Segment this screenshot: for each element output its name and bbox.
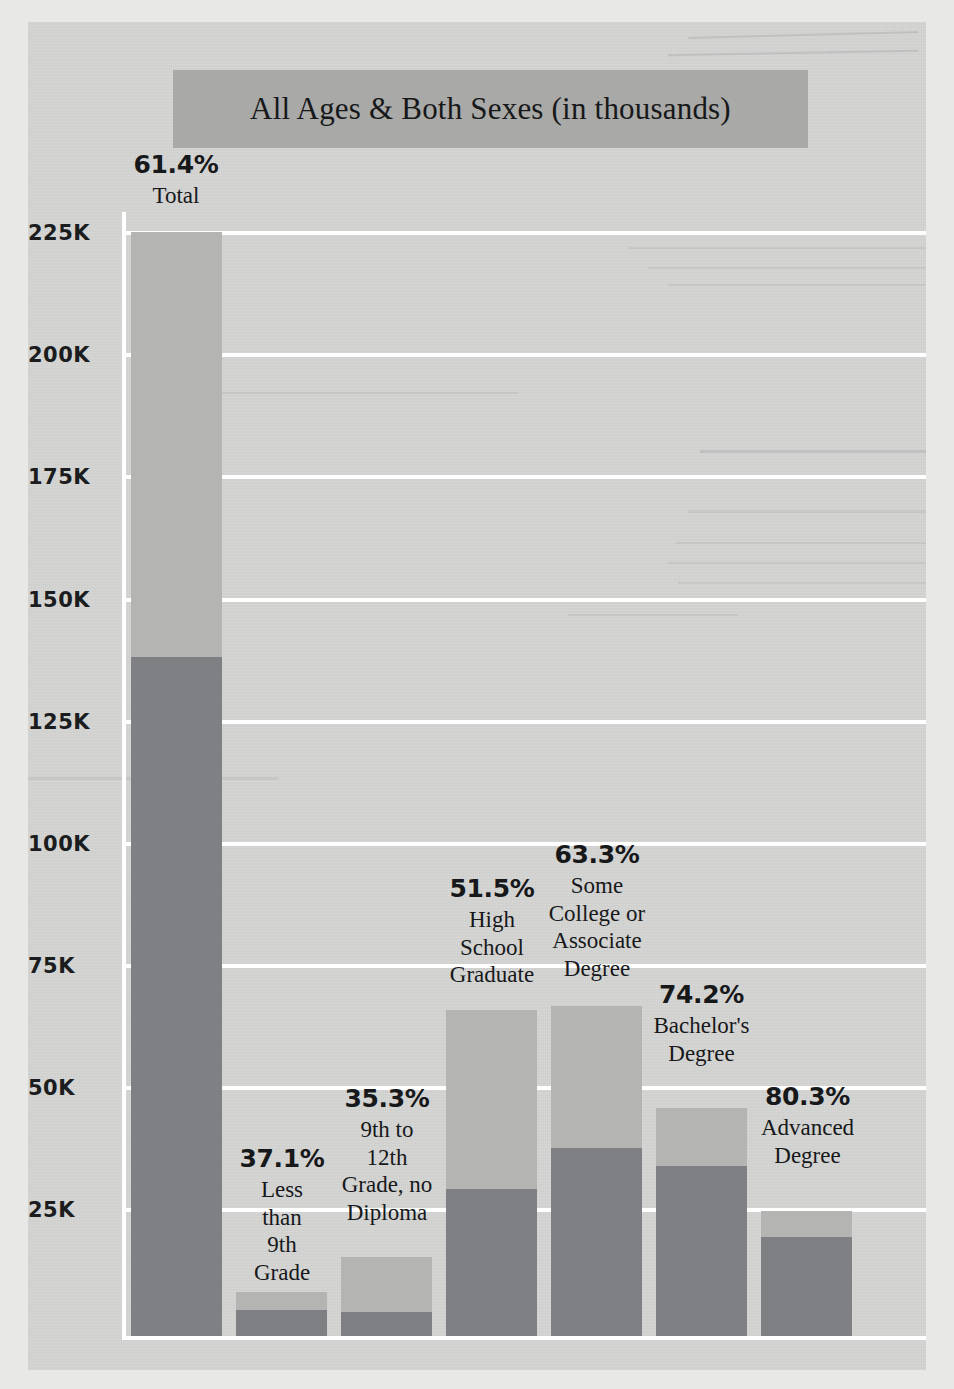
bar-category-line: 9th — [222, 1231, 342, 1259]
gridline-125k — [122, 720, 926, 724]
bar-category-line: 9th to — [320, 1116, 454, 1144]
bar-category-line: Grade, no — [320, 1171, 454, 1199]
bar-category-line: Grade — [222, 1259, 342, 1287]
bar-label-bachelors-degree: 74.2% Bachelor's Degree — [629, 980, 774, 1067]
bar-category-line: Degree — [629, 1040, 774, 1068]
plot-area: 225K 200K 175K 150K 125K 100K 75K 50K 25… — [28, 22, 926, 1370]
bar-percent-advanced-degree: 80.3% — [736, 1082, 879, 1112]
bar-segment-upper — [761, 1211, 852, 1237]
bar-total[interactable] — [131, 232, 222, 1336]
gridline-225k — [122, 231, 926, 235]
bar-segment-lower — [341, 1312, 432, 1336]
bar-segment-lower — [656, 1166, 747, 1336]
bar-percent-9th-to-12th-grade-no-diploma: 35.3% — [320, 1084, 454, 1114]
bar-category-line: Diploma — [320, 1199, 454, 1227]
x-axis-line — [122, 1336, 926, 1340]
bar-category-line: 12th — [320, 1144, 454, 1172]
bar-segment-lower — [131, 657, 222, 1336]
bar-label-9th-to-12th-grade-no-diploma: 35.3% 9th to 12th Grade, no Diploma — [320, 1084, 454, 1226]
gridline-150k — [122, 598, 926, 602]
ytick-label-100k: 100K — [28, 832, 112, 856]
ytick-label-150k: 150K — [28, 588, 112, 612]
ytick-label-125k: 125K — [28, 710, 112, 734]
bar-segment-lower — [236, 1310, 327, 1336]
ytick-label-225k: 225K — [28, 221, 112, 245]
y-axis-line — [122, 212, 126, 1340]
bar-category-line: Bachelor's — [629, 1012, 774, 1040]
bar-label-advanced-degree: 80.3% Advanced Degree — [736, 1082, 879, 1169]
bar-bachelors-degree[interactable] — [656, 1108, 747, 1336]
bar-category-line: Associate — [526, 927, 668, 955]
ytick-label-50k: 50K — [28, 1076, 112, 1100]
chart-panel: All Ages & Both Sexes (in thousands) 225… — [28, 22, 926, 1370]
ytick-label-25k: 25K — [28, 1198, 112, 1222]
bar-segment-lower — [761, 1237, 852, 1336]
ytick-label-200k: 200K — [28, 343, 112, 367]
bar-advanced-degree[interactable] — [761, 1211, 852, 1336]
gridline-200k — [122, 353, 926, 357]
bar-segment-upper — [236, 1292, 327, 1310]
bar-segment-lower — [446, 1189, 537, 1336]
bar-segment-lower — [551, 1148, 642, 1336]
gridline-175k — [122, 475, 926, 479]
bar-category-line: Total — [116, 182, 236, 210]
bar-label-some-college-or-associate-degree: 63.3% Some College or Associate Degree — [526, 840, 668, 982]
bar-less-than-9th-grade[interactable] — [236, 1292, 327, 1336]
bar-segment-upper — [341, 1257, 432, 1312]
bar-high-school-graduate[interactable] — [446, 1010, 537, 1336]
bar-category-line: Degree — [736, 1142, 879, 1170]
gridline-100k — [122, 842, 926, 846]
bar-9th-to-12th-grade-no-diploma[interactable] — [341, 1257, 432, 1336]
bar-segment-upper — [131, 232, 222, 657]
bar-segment-upper — [656, 1108, 747, 1166]
ytick-label-175k: 175K — [28, 465, 112, 489]
bar-category-line: Degree — [526, 955, 668, 983]
bar-percent-some-college-or-associate-degree: 63.3% — [526, 840, 668, 870]
bar-label-total: 61.4% Total — [116, 150, 236, 210]
ytick-label-75k: 75K — [28, 954, 112, 978]
bar-percent-total: 61.4% — [116, 150, 236, 180]
bar-category-line: Some — [526, 872, 668, 900]
bar-segment-upper — [446, 1010, 537, 1189]
bar-category-line: Advanced — [736, 1114, 879, 1142]
bar-percent-bachelors-degree: 74.2% — [629, 980, 774, 1010]
bar-category-line: College or — [526, 900, 668, 928]
